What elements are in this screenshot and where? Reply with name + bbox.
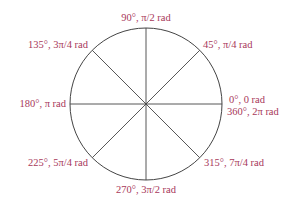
label-45: 45°, π/4 rad — [203, 39, 253, 50]
label-135: 135°, 3π/4 rad — [28, 39, 89, 50]
label-180: 180°, π rad — [19, 98, 66, 109]
label-90: 90°, π/2 rad — [121, 12, 171, 23]
label-360: 360°, 2π rad — [227, 106, 280, 117]
unit-circle-diagram: 90°, π/2 rad 45°, π/4 rad 135°, 3π/4 rad… — [0, 0, 291, 209]
label-225: 225°, 5π/4 rad — [28, 157, 89, 168]
label-0: 0°, 0 rad — [229, 94, 266, 105]
label-315: 315°, 7π/4 rad — [204, 157, 265, 168]
label-270: 270°, 3π/2 rad — [116, 184, 177, 195]
